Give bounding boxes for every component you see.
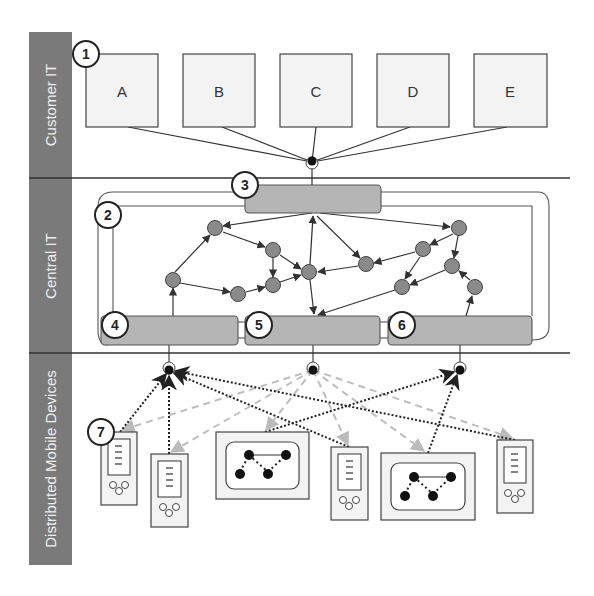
mobile-devices bbox=[101, 432, 533, 527]
system-box-a[interactable]: A bbox=[86, 54, 158, 127]
svg-text:1: 1 bbox=[82, 46, 90, 62]
process-node[interactable] bbox=[395, 280, 410, 295]
callout-7: 7 bbox=[88, 419, 114, 445]
process-node[interactable] bbox=[416, 242, 431, 257]
callout-6: 6 bbox=[389, 312, 415, 338]
process-node[interactable] bbox=[266, 243, 281, 258]
system-label: C bbox=[311, 83, 322, 100]
process-node[interactable] bbox=[445, 259, 460, 274]
architecture-diagram: Customer IT Central IT Distributed Mobil… bbox=[0, 0, 594, 596]
callout-2: 2 bbox=[95, 202, 121, 228]
mobile-phone-icon[interactable] bbox=[151, 454, 188, 527]
system-box-c[interactable]: C bbox=[280, 54, 352, 127]
svg-text:7: 7 bbox=[97, 424, 105, 440]
callout-4: 4 bbox=[102, 312, 128, 338]
gateway-bar-top[interactable] bbox=[245, 185, 381, 213]
system-label: D bbox=[408, 83, 419, 100]
gateways bbox=[101, 185, 532, 345]
system-label: A bbox=[117, 83, 127, 100]
lane-label-mobile-devices: Distributed Mobile Devices bbox=[42, 370, 59, 548]
port-icon bbox=[163, 362, 175, 375]
tablet-icon[interactable] bbox=[381, 453, 475, 520]
customer-systems: A B C D E bbox=[86, 54, 547, 127]
system-box-b[interactable]: B bbox=[183, 54, 255, 127]
svg-text:6: 6 bbox=[398, 317, 406, 333]
ports bbox=[163, 362, 466, 375]
process-node[interactable] bbox=[359, 257, 374, 272]
mobile-phone-icon[interactable] bbox=[497, 440, 533, 513]
mobile-phone-icon[interactable] bbox=[331, 447, 368, 520]
lane-sidebar: Customer IT Central IT Distributed Mobil… bbox=[29, 32, 72, 565]
callout-1: 1 bbox=[73, 41, 99, 67]
port-stems bbox=[169, 345, 460, 364]
data-links-dotted bbox=[120, 371, 515, 454]
svg-text:4: 4 bbox=[111, 317, 119, 333]
lane-label-central-it: Central IT bbox=[42, 233, 59, 299]
customer-links bbox=[128, 127, 507, 185]
callout-5: 5 bbox=[246, 312, 272, 338]
system-label: B bbox=[214, 83, 224, 100]
lane-label-customer-it: Customer IT bbox=[42, 64, 59, 147]
svg-text:5: 5 bbox=[255, 317, 263, 333]
sync-links-dashed bbox=[122, 370, 512, 452]
process-node[interactable] bbox=[166, 273, 181, 288]
process-node[interactable] bbox=[452, 221, 467, 236]
tablet-icon[interactable] bbox=[216, 432, 309, 499]
svg-text:2: 2 bbox=[104, 207, 112, 223]
hub-port-icon bbox=[306, 157, 318, 170]
system-box-e[interactable]: E bbox=[474, 54, 547, 127]
system-box-d[interactable]: D bbox=[377, 54, 449, 127]
callout-3: 3 bbox=[232, 172, 258, 198]
process-node[interactable] bbox=[302, 265, 317, 280]
process-node[interactable] bbox=[468, 280, 483, 295]
port-icon bbox=[307, 362, 319, 375]
system-label: E bbox=[505, 83, 515, 100]
process-node[interactable] bbox=[208, 221, 223, 236]
port-icon bbox=[454, 362, 466, 375]
process-node[interactable] bbox=[231, 287, 246, 302]
svg-text:3: 3 bbox=[241, 177, 249, 193]
process-node[interactable] bbox=[266, 278, 281, 293]
